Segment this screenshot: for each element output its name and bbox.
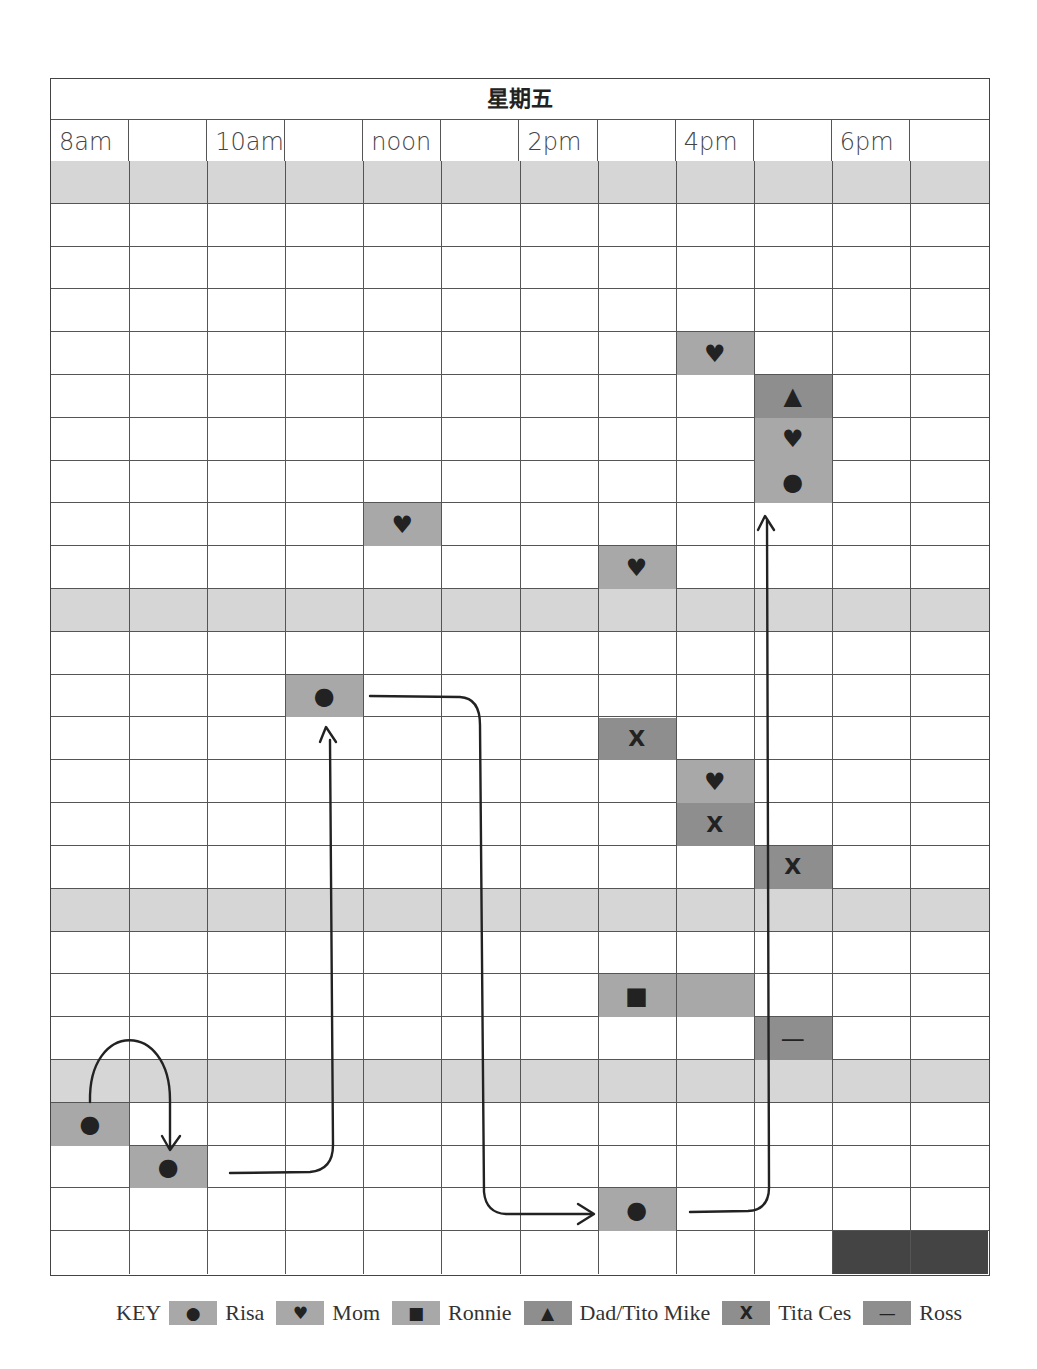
circle-icon: ●	[186, 1303, 201, 1323]
grid-column-line	[520, 161, 521, 1274]
schedule-grid: ♥▲♥●♥♥●X♥XX■—●●●	[51, 161, 989, 1274]
grid-column-line	[207, 161, 208, 1274]
legend-name: Ross	[919, 1300, 962, 1326]
time-label	[441, 119, 519, 161]
time-label	[754, 119, 832, 161]
heart-icon: ♥	[392, 513, 414, 537]
circle-icon: ●	[314, 684, 335, 708]
grid-column-line	[129, 161, 130, 1274]
x-icon: X	[628, 728, 645, 750]
circle-icon: ●	[626, 1198, 647, 1222]
schedule-cell: ♥	[754, 418, 832, 461]
dash-icon: —	[781, 1027, 805, 1051]
circle-icon: ●	[80, 1112, 101, 1136]
grid-column-line	[754, 161, 755, 1274]
time-label: 8am	[51, 119, 129, 161]
heart-icon: ♥	[704, 770, 726, 794]
legend: KEY ●Risa♥Mom■Ronnie▲Dad/Tito MikeXTita …	[116, 1300, 974, 1326]
legend-name: Dad/Tito Mike	[580, 1300, 711, 1326]
grid-column-line	[285, 161, 286, 1274]
heart-icon: ♥	[293, 1303, 308, 1323]
legend-swatch: ■	[392, 1301, 440, 1325]
schedule-cell: ♥	[676, 760, 754, 803]
schedule-cell: ●	[598, 1188, 676, 1231]
heart-icon: ♥	[626, 556, 648, 580]
time-label: 4pm	[676, 119, 754, 161]
x-icon: X	[706, 814, 723, 836]
legend-name: Ronnie	[448, 1300, 512, 1326]
heart-icon: ♥	[782, 427, 804, 451]
legend-swatch: ♥	[276, 1301, 324, 1325]
circle-icon: ●	[782, 470, 803, 494]
x-icon: X	[740, 1303, 753, 1323]
legend-swatch: —	[863, 1301, 911, 1325]
legend-name: Mom	[332, 1300, 380, 1326]
legend-name: Tita Ces	[778, 1300, 851, 1326]
schedule-cell: —	[754, 1017, 832, 1060]
legend-items: ●Risa♥Mom■Ronnie▲Dad/Tito MikeXTita Ces—…	[169, 1300, 974, 1326]
circle-icon: ●	[158, 1155, 179, 1179]
heart-icon: ♥	[704, 342, 726, 366]
square-icon: ■	[408, 1303, 424, 1323]
schedule-cell: ♥	[676, 332, 754, 375]
legend-name: Risa	[225, 1300, 264, 1326]
time-header-row: 8am10amnoon2pm4pm6pm	[51, 119, 989, 162]
time-label	[598, 119, 676, 161]
legend-swatch: ▲	[524, 1301, 572, 1325]
schedule-cell: X	[598, 718, 676, 761]
grid-column-line	[832, 161, 833, 1274]
time-label	[285, 119, 363, 161]
grid-column-line	[363, 161, 364, 1274]
grid-column-line	[441, 161, 442, 1274]
schedule-cell: ●	[51, 1103, 129, 1146]
time-label	[129, 119, 207, 161]
schedule-sheet: 星期五 8am10amnoon2pm4pm6pm ♥▲♥●♥♥●X♥XX■—●●…	[50, 78, 990, 1276]
legend-title: KEY	[116, 1300, 161, 1326]
dash-icon: —	[879, 1303, 896, 1323]
time-label	[910, 119, 988, 161]
schedule-cell: ♥	[363, 503, 441, 546]
schedule-cell: ●	[285, 675, 363, 718]
x-icon: X	[784, 856, 801, 878]
grid-column-line	[676, 161, 677, 1274]
legend-swatch: X	[722, 1301, 770, 1325]
grid-column-line	[598, 161, 599, 1274]
square-icon: ■	[625, 984, 648, 1008]
schedule-cell: X	[754, 846, 832, 889]
schedule-cell: X	[676, 803, 754, 846]
time-label: 6pm	[832, 119, 910, 161]
time-label: 2pm	[520, 119, 598, 161]
schedule-cell: ●	[754, 461, 832, 504]
triangle-icon: ▲	[541, 1303, 554, 1323]
legend-swatch: ●	[169, 1301, 217, 1325]
schedule-cell: ♥	[598, 546, 676, 589]
time-label: noon	[363, 119, 441, 161]
schedule-cell: ●	[129, 1146, 207, 1189]
triangle-icon: ▲	[784, 384, 802, 408]
grid-column-line	[910, 161, 911, 1274]
day-title: 星期五	[51, 79, 989, 120]
time-label: 10am	[207, 119, 285, 161]
schedule-cell: ▲	[754, 375, 832, 418]
